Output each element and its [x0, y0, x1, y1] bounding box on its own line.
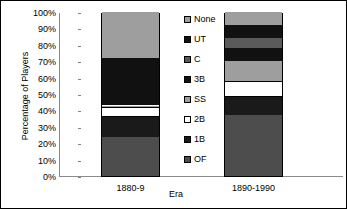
legend-swatch-icon: [184, 16, 191, 23]
stacked-bar-chart: Percentage of Players 100%90%80%70%60%50…: [0, 0, 347, 209]
y-axis-tick-label: 50%: [38, 91, 56, 100]
legend-label: C: [194, 55, 201, 64]
bar-segment-1b[interactable]: [102, 117, 159, 137]
stacked-bar[interactable]: [224, 13, 283, 177]
legend-swatch-icon: [184, 156, 191, 163]
bar-segment-1b[interactable]: [225, 97, 282, 115]
legend-item-2b[interactable]: 2B: [184, 114, 205, 125]
legend-swatch-icon: [184, 56, 191, 63]
bar-segment-2b[interactable]: [102, 107, 159, 117]
y-axis-tick-label: 90%: [38, 25, 56, 34]
y-axis-tick-label: 100%: [33, 9, 56, 18]
y-axis-tick-label: 0%: [43, 173, 56, 182]
legend-label: SS: [194, 95, 206, 104]
legend-item-ut[interactable]: UT: [184, 34, 206, 45]
legend-item-1b[interactable]: 1B: [184, 134, 205, 145]
legend-item-3b[interactable]: 3B: [184, 74, 205, 85]
bar-segment-ut[interactable]: [225, 25, 282, 38]
y-axis-line: [59, 13, 60, 177]
legend-label: 1B: [194, 135, 205, 144]
y-axis-tick-label: 80%: [38, 41, 56, 50]
bar-segment-of[interactable]: [225, 115, 282, 176]
bar-segment-ss[interactable]: [102, 106, 159, 108]
legend-item-c[interactable]: C: [184, 54, 201, 65]
legend-item-none[interactable]: None: [184, 14, 216, 25]
legend-label: None: [194, 15, 216, 24]
legend-swatch-icon: [184, 136, 191, 143]
y-axis-tick-labels: 100%90%80%70%60%50%40%30%20%10%0%: [21, 13, 56, 177]
x-axis-category-label: 1880-9: [89, 183, 172, 193]
legend-swatch-icon: [184, 116, 191, 123]
stacked-bar[interactable]: [101, 13, 160, 177]
bar-segment-of[interactable]: [102, 137, 159, 176]
bar-segment-2b[interactable]: [225, 81, 282, 97]
y-axis-tick-mark: [78, 177, 81, 178]
bar-segment-none[interactable]: [102, 12, 159, 58]
legend-label: 2B: [194, 115, 205, 124]
y-axis-tick-label: 10%: [38, 156, 56, 165]
legend-swatch-icon: [184, 96, 191, 103]
y-axis-tick-label: 40%: [38, 107, 56, 116]
legend-item-of[interactable]: OF: [184, 154, 207, 165]
bar-segment-none[interactable]: [225, 12, 282, 25]
legend-swatch-icon: [184, 76, 191, 83]
y-axis-tick-label: 30%: [38, 123, 56, 132]
legend-label: OF: [194, 155, 207, 164]
bar-segment-c[interactable]: [225, 38, 282, 48]
x-axis-category-label: 1890-1990: [212, 183, 295, 193]
bar-segment-3b[interactable]: [225, 48, 282, 61]
legend-swatch-icon: [184, 36, 191, 43]
legend-label: UT: [194, 35, 206, 44]
y-axis-tick-label: 70%: [38, 58, 56, 67]
legend-item-ss[interactable]: SS: [184, 94, 206, 105]
legend-label: 3B: [194, 75, 205, 84]
bar-column[interactable]: [101, 13, 160, 177]
bar-segment-3b[interactable]: [102, 58, 159, 106]
y-axis-tick-label: 20%: [38, 140, 56, 149]
bar-column[interactable]: [224, 13, 283, 177]
bar-segment-ss[interactable]: [225, 61, 282, 81]
plot-area: [59, 13, 287, 177]
y-axis-tick-label: 60%: [38, 74, 56, 83]
